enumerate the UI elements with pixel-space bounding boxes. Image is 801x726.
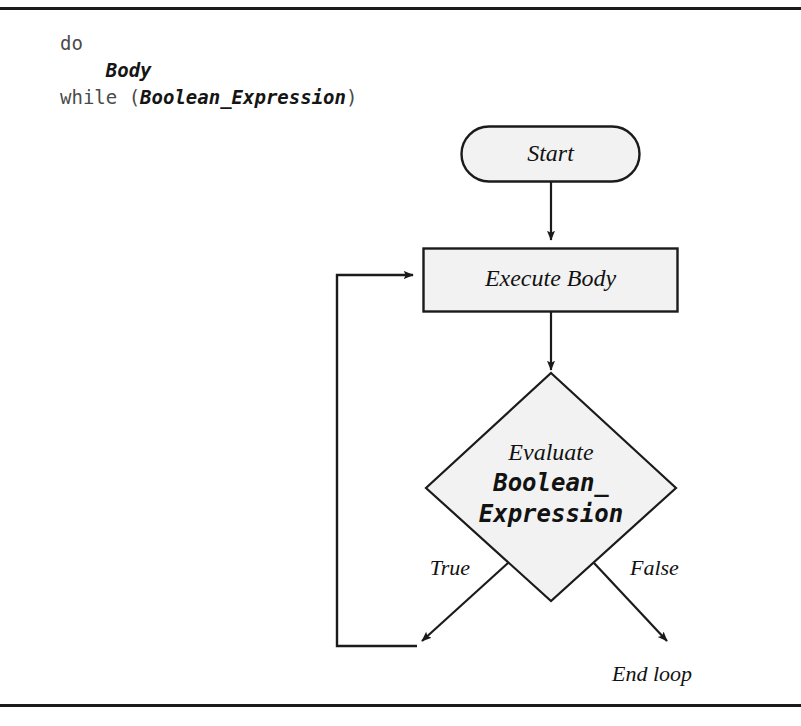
flowchart-canvas	[0, 0, 801, 726]
start-node-shape	[462, 127, 640, 182]
edge-false-branch	[594, 563, 667, 641]
flowchart-figure: doBodywhile (Boolean_Expression) Start E…	[0, 0, 801, 726]
edge-true-branch	[422, 563, 508, 641]
execute-body-node-shape	[424, 249, 678, 312]
decision-node-shape	[426, 373, 676, 601]
edge-loop-back	[337, 275, 417, 646]
